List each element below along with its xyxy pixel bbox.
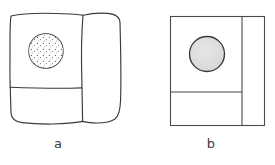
panel-a-outline (10, 13, 121, 124)
panel-b-label: b (202, 137, 220, 150)
panel-b (171, 17, 265, 126)
figure-root: a b (0, 0, 275, 165)
panel-a-label: a (49, 137, 67, 150)
panel-b-grey-nodule (190, 37, 225, 72)
panel-a (10, 13, 121, 124)
figure-canvas (0, 0, 275, 165)
panel-b-outline (171, 17, 265, 126)
